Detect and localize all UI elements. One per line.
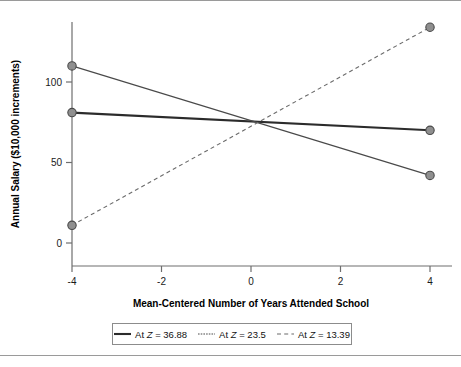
series-line-2 <box>72 27 430 225</box>
legend-swatch-solid-thin <box>198 330 215 338</box>
x-tick-label-2: 2 <box>338 276 344 287</box>
y-tick-label-50: 50 <box>51 157 63 168</box>
data-point-marker <box>426 23 434 31</box>
y-axis-tick-labels: 0 50 100 <box>45 77 62 249</box>
legend-label-z-36-88: At Z = 36.88 <box>135 329 187 340</box>
chart-legend: At Z = 36.88 At Z = 23.5 At Z = 13.39 <box>112 323 352 345</box>
x-tick-label-0: 0 <box>248 276 254 287</box>
y-tick-label-100: 100 <box>45 77 62 88</box>
legend-label-z-13-39: At Z = 13.39 <box>298 329 350 340</box>
data-point-marker <box>68 108 76 116</box>
x-tick-label-neg2: -2 <box>157 276 166 287</box>
line-chart: 0 50 100 -4 -2 0 2 4 Mean-Centered Numbe… <box>0 0 461 320</box>
data-point-marker <box>426 126 434 134</box>
series-line-1 <box>72 66 430 175</box>
data-point-marker <box>68 62 76 70</box>
series-layer <box>72 27 430 225</box>
series-line-0 <box>72 113 430 131</box>
x-axis-title: Mean-Centered Number of Years Attended S… <box>133 298 369 309</box>
legend-entry-z-36-88[interactable]: At Z = 36.88 <box>114 329 187 340</box>
x-axis-tick-labels: -4 -2 0 2 4 <box>68 276 434 287</box>
y-axis-ticks <box>66 82 72 243</box>
x-axis-ticks <box>72 266 430 272</box>
x-tick-label-neg4: -4 <box>68 276 77 287</box>
legend-entry-z-13-39[interactable]: At Z = 13.39 <box>277 329 350 340</box>
figure-container: 0 50 100 -4 -2 0 2 4 Mean-Centered Numbe… <box>0 0 461 367</box>
x-tick-label-4: 4 <box>427 276 433 287</box>
legend-swatch-dashed <box>277 330 294 338</box>
y-tick-label-0: 0 <box>56 238 62 249</box>
figure-bottom-rule <box>0 355 461 356</box>
legend-swatch-solid-thick <box>114 330 131 338</box>
data-point-marker <box>426 171 434 179</box>
legend-label-z-23-5: At Z = 23.5 <box>219 329 266 340</box>
data-point-marker <box>68 221 76 229</box>
y-axis-title: Annual Salary ($10,000 increments) <box>10 60 21 228</box>
legend-entry-z-23-5[interactable]: At Z = 23.5 <box>198 329 266 340</box>
